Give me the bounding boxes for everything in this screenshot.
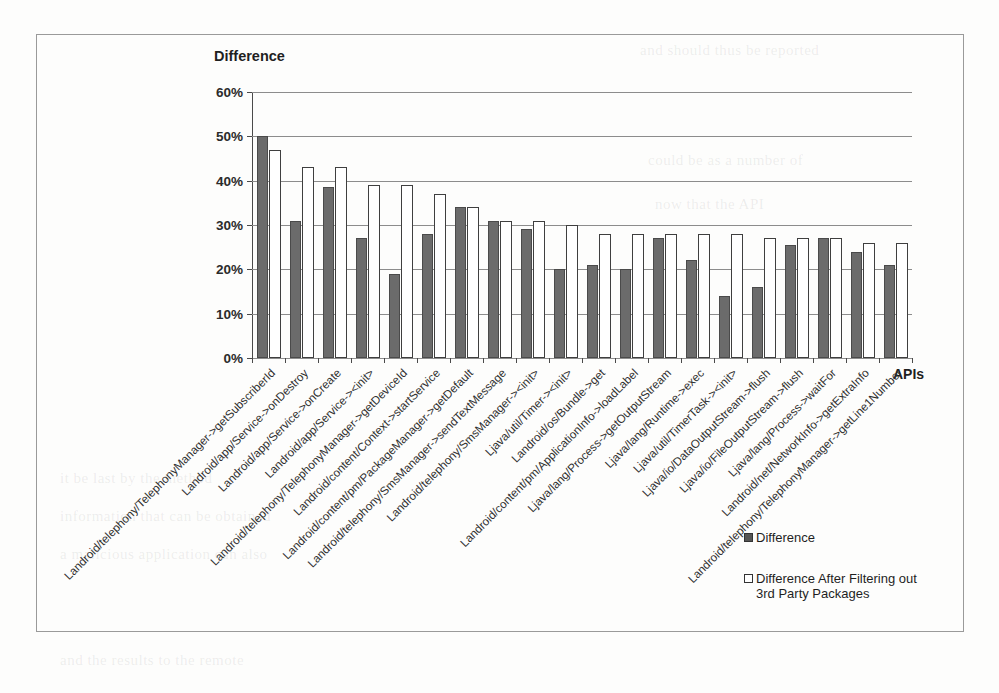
bar-group (846, 92, 879, 358)
bar-group (450, 92, 483, 358)
legend-item-difference: Difference (744, 530, 944, 545)
bar-difference-filtered (500, 221, 512, 358)
bar-difference-filtered (830, 238, 842, 358)
x-axis-tick-mark (714, 358, 715, 363)
x-axis-tick-mark (879, 358, 880, 363)
bar-difference-filtered (698, 234, 710, 358)
y-axis-tick-label: 50% (216, 129, 243, 144)
bar-difference-filtered (632, 234, 644, 358)
x-axis-tick-mark (417, 358, 418, 363)
bar-difference-filtered (533, 221, 545, 358)
legend-swatch-outline-icon (744, 574, 753, 583)
bar-difference-filtered (731, 234, 743, 358)
bar-group (384, 92, 417, 358)
bar-difference (818, 238, 830, 358)
y-axis-tick-label: 20% (216, 262, 243, 277)
bar-difference (323, 187, 335, 358)
bar-difference (719, 296, 731, 358)
bar-group (483, 92, 516, 358)
bar-difference (257, 136, 269, 358)
bar-difference-filtered (566, 225, 578, 358)
bar-group (615, 92, 648, 358)
bar-group (318, 92, 351, 358)
bar-difference (422, 234, 434, 358)
bar-difference-filtered (764, 238, 776, 358)
x-axis-tick-mark (813, 358, 814, 363)
x-axis-tick-mark (648, 358, 649, 363)
bar-group (351, 92, 384, 358)
x-axis-tick-mark (516, 358, 517, 363)
x-axis-tick-mark (450, 358, 451, 363)
bar-difference (653, 238, 665, 358)
bar-group (252, 92, 285, 358)
x-axis-tick-mark (351, 358, 352, 363)
bar-difference (554, 269, 566, 358)
bar-difference-filtered (665, 234, 677, 358)
x-axis-tick-mark (681, 358, 682, 363)
x-axis-tick-mark (747, 358, 748, 363)
legend-label: Difference After Filtering out 3rd Party… (756, 571, 931, 601)
bar-difference-filtered (401, 185, 413, 358)
x-axis-title: APIs (893, 366, 924, 382)
y-axis-tick-label: 30% (216, 218, 243, 233)
bar-group (417, 92, 450, 358)
bar-group (582, 92, 615, 358)
bar-difference (785, 245, 797, 358)
x-axis-tick-mark (384, 358, 385, 363)
bar-difference (521, 229, 533, 358)
y-axis-tick-label: 0% (223, 351, 243, 366)
bar-group (747, 92, 780, 358)
bar-difference-filtered (335, 167, 347, 358)
bar-difference-filtered (863, 243, 875, 358)
x-axis-tick-mark (912, 358, 913, 363)
x-axis-tick-mark (318, 358, 319, 363)
x-axis-tick-mark (615, 358, 616, 363)
bar-difference-filtered (467, 207, 479, 358)
x-axis-tick-mark (780, 358, 781, 363)
bar-difference-filtered (797, 238, 809, 358)
bleed-text: and the results to the remote (60, 652, 244, 669)
bar-difference (686, 260, 698, 358)
legend-swatch-filled-icon (744, 533, 753, 542)
x-axis-tick-mark (846, 358, 847, 363)
bar-difference (587, 265, 599, 358)
bar-group (285, 92, 318, 358)
bar-difference-filtered (599, 234, 611, 358)
bar-group (780, 92, 813, 358)
bar-difference (290, 221, 302, 358)
bar-group (516, 92, 549, 358)
bar-difference (389, 274, 401, 358)
bar-difference-filtered (269, 150, 281, 358)
y-axis-title: Difference (214, 48, 285, 64)
x-axis-tick-mark (582, 358, 583, 363)
bar-group (648, 92, 681, 358)
plot-area: 60%50%40%30%20%10%0% (252, 92, 912, 358)
bar-difference (752, 287, 764, 358)
bar-difference (851, 252, 863, 358)
bar-difference (884, 265, 896, 358)
bar-group (549, 92, 582, 358)
x-axis-tick-mark (483, 358, 484, 363)
screenshot-page: and should thus be reported could be as … (0, 0, 999, 693)
y-axis-tick-label: 40% (216, 173, 243, 188)
bar-difference-filtered (368, 185, 380, 358)
x-axis-tick-mark (549, 358, 550, 363)
legend-label: Difference (756, 530, 815, 545)
bar-difference (620, 269, 632, 358)
bar-difference (455, 207, 467, 358)
y-axis-tick-label: 10% (216, 306, 243, 321)
bar-difference-filtered (434, 194, 446, 358)
x-axis-tick-mark (252, 358, 253, 363)
bar-group (879, 92, 912, 358)
x-axis-tick-mark (285, 358, 286, 363)
bar-difference (356, 238, 368, 358)
bar-group (714, 92, 747, 358)
bar-group (681, 92, 714, 358)
legend-item-difference-filtered: Difference After Filtering out 3rd Party… (744, 571, 944, 601)
y-axis-tick-label: 60% (216, 85, 243, 100)
bar-difference-filtered (896, 243, 908, 358)
bar-group (813, 92, 846, 358)
bar-difference-filtered (302, 167, 314, 358)
chart-legend: Difference Difference After Filtering ou… (744, 530, 944, 627)
bar-difference (488, 221, 500, 358)
